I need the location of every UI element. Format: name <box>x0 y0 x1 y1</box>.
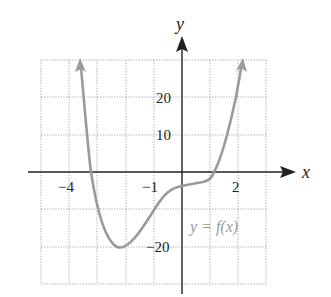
x-tick-label: −1 <box>142 179 158 195</box>
axes <box>28 36 296 294</box>
y-tick-label: 20 <box>156 90 171 106</box>
x-tick-label: 2 <box>232 179 240 195</box>
x-axis-label: x <box>301 162 310 182</box>
y-axis-label: y <box>174 14 184 34</box>
function-graph: x y −4 −1 2 20 10 −20 y = f(x) <box>0 0 331 297</box>
y-tick-label: 10 <box>156 127 171 143</box>
y-tick-label: −20 <box>146 239 169 255</box>
x-tick-label: −4 <box>58 179 74 195</box>
function-label: y = f(x) <box>188 218 238 236</box>
